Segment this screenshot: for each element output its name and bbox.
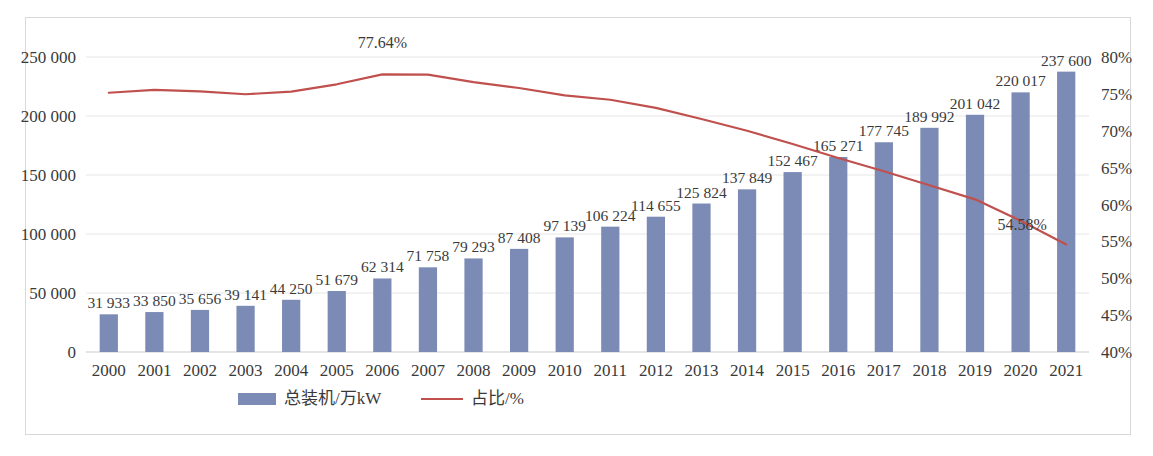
x-axis-tick: 2005	[320, 361, 354, 380]
y-axis-right-tick: 40%	[1101, 343, 1132, 362]
bar-value-label: 220 017	[995, 72, 1046, 89]
bar	[282, 300, 300, 352]
y-axis-right-tick: 45%	[1101, 306, 1132, 325]
legend-label: 占比/%	[471, 389, 524, 408]
x-axis-tick: 2003	[229, 361, 263, 380]
bar-value-label: 31 933	[87, 294, 130, 311]
y-axis-right-tick: 60%	[1101, 196, 1132, 215]
bar	[145, 312, 163, 352]
y-axis-right-tick: 65%	[1101, 159, 1132, 178]
bar	[100, 314, 118, 352]
bar-value-label: 106 224	[585, 207, 636, 224]
bar-value-label: 51 679	[315, 271, 358, 288]
bar-value-label: 35 656	[179, 290, 222, 307]
y-axis-left-tick: 200 000	[21, 107, 76, 126]
bar-value-label: 201 042	[950, 95, 1000, 112]
x-axis-tick: 2009	[502, 361, 536, 380]
bar-value-labels: 31 93333 85035 65639 14144 25051 67962 3…	[87, 52, 1091, 312]
x-axis-tick: 2021	[1049, 361, 1083, 380]
bar-value-label: 33 850	[133, 292, 176, 309]
x-axis-tick: 2018	[912, 361, 946, 380]
bar	[784, 172, 802, 352]
bar-value-label: 165 271	[813, 137, 863, 154]
y-axis-left-tick: 250 000	[21, 48, 76, 67]
x-axis-tick: 2010	[548, 361, 582, 380]
bar-value-label: 44 250	[270, 280, 313, 297]
y-axis-left: 050 000100 000150 000200 000250 000	[21, 48, 76, 362]
line-annotation-label: 54.58%	[998, 216, 1047, 233]
y-axis-right-tick: 80%	[1101, 48, 1132, 67]
bar-value-label: 62 314	[361, 258, 404, 275]
x-axis-tick: 2006	[365, 361, 399, 380]
bar	[191, 310, 209, 352]
bar-value-label: 39 141	[224, 286, 267, 303]
x-axis-tick: 2013	[684, 361, 718, 380]
x-axis-tick: 2019	[958, 361, 992, 380]
bar-value-label: 97 139	[543, 217, 586, 234]
x-axis-tick: 2001	[137, 361, 171, 380]
y-axis-right: 40%45%50%55%60%65%70%75%80%	[1101, 48, 1132, 362]
bar	[556, 237, 574, 352]
bar	[829, 157, 847, 352]
legend: 总装机/万kW占比/%	[238, 389, 524, 408]
bar-value-label: 79 293	[452, 238, 495, 255]
bar-value-label: 152 467	[767, 152, 818, 169]
chart-canvas: 050 000100 000150 000200 000250 00040%45…	[0, 0, 1153, 456]
x-axis-tick: 2002	[183, 361, 217, 380]
bar	[966, 115, 984, 352]
bar	[510, 249, 528, 352]
bar	[647, 217, 665, 352]
x-axis: 2000200120022003200420052006200720082009…	[92, 361, 1083, 380]
x-axis-tick: 2015	[776, 361, 810, 380]
legend-label: 总装机/万kW	[284, 389, 382, 408]
bar	[1057, 72, 1075, 352]
y-axis-left-tick: 100 000	[21, 225, 76, 244]
bar	[373, 278, 391, 352]
bar	[920, 128, 938, 352]
bar-value-label: 177 745	[859, 122, 910, 139]
y-axis-left-tick: 50 000	[29, 284, 76, 303]
bar-value-label: 114 655	[631, 197, 681, 214]
x-axis-tick: 2014	[730, 361, 765, 380]
x-axis-tick: 2000	[92, 361, 126, 380]
line-annotation-label: 77.64%	[358, 34, 407, 51]
x-axis-tick: 2017	[867, 361, 902, 380]
x-axis-tick: 2007	[411, 361, 446, 380]
x-axis-tick: 2011	[594, 361, 627, 380]
chart-container: 050 000100 000150 000200 000250 00040%45…	[0, 0, 1153, 456]
y-axis-left-tick: 0	[68, 343, 77, 362]
bar-value-label: 87 408	[498, 229, 541, 246]
bar	[236, 306, 254, 352]
bar	[601, 227, 619, 352]
x-axis-tick: 2012	[639, 361, 673, 380]
y-axis-right-tick: 70%	[1101, 122, 1132, 141]
bar	[328, 291, 346, 352]
x-axis-tick: 2004	[274, 361, 309, 380]
y-axis-right-tick: 75%	[1101, 85, 1132, 104]
x-axis-tick: 2020	[1004, 361, 1038, 380]
y-axis-left-tick: 150 000	[21, 166, 76, 185]
legend-swatch-bar	[238, 393, 276, 405]
bar-value-label: 125 824	[676, 184, 727, 201]
y-axis-right-tick: 50%	[1101, 269, 1132, 288]
bar	[464, 258, 482, 352]
bar-value-label: 137 849	[722, 169, 773, 186]
bar	[692, 204, 710, 352]
y-axis-right-tick: 55%	[1101, 232, 1132, 251]
x-axis-tick: 2016	[821, 361, 855, 380]
bar	[419, 267, 437, 352]
bar-value-label: 237 600	[1041, 52, 1092, 69]
bar-value-label: 189 992	[904, 108, 954, 125]
x-axis-tick: 2008	[457, 361, 491, 380]
bar	[738, 189, 756, 352]
bar-value-label: 71 758	[407, 247, 450, 264]
